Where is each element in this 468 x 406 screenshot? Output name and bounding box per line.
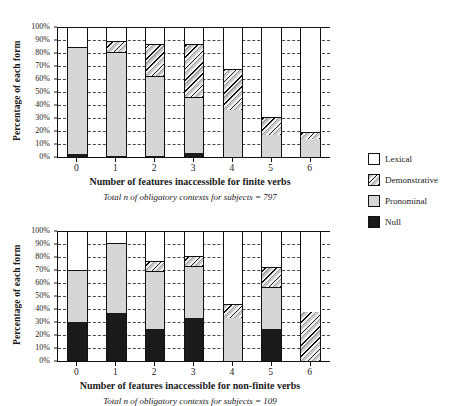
x-tick-mark	[193, 362, 194, 366]
bar-segment-pronominal	[68, 47, 87, 155]
y-tick-label: 100%	[31, 227, 50, 235]
bar-column	[67, 231, 88, 361]
bar-segment-pronominal	[224, 318, 243, 361]
legend-swatch-lexical-icon	[368, 153, 380, 165]
x-tick-label: 0	[74, 163, 79, 173]
bar-segment-lexical	[262, 231, 281, 267]
bar-segment-null	[185, 318, 204, 361]
bar-segment-demonstrative	[107, 41, 126, 51]
x-tick-label: 5	[268, 367, 273, 377]
bar-column	[145, 27, 166, 157]
bar-segment-lexical	[301, 231, 320, 312]
x-tick-label: 1	[113, 163, 118, 173]
bar-segment-null	[146, 329, 165, 362]
bar-column	[67, 27, 88, 157]
bar-segment-pronominal	[107, 243, 126, 313]
bar-segment-pronominal	[185, 97, 204, 153]
bar-segment-lexical	[107, 231, 126, 243]
y-axis-ticks-nonfinite: 0%10%20%30%40%50%60%70%80%90%100%	[22, 225, 54, 365]
x-tick-label: 6	[307, 367, 312, 377]
y-tick-label: 40%	[35, 101, 50, 109]
bar-column	[300, 231, 321, 361]
y-tick-label: 30%	[35, 318, 50, 326]
bar-segment-demonstrative	[146, 44, 165, 77]
bar-segment-lexical	[301, 27, 320, 132]
chart-legend: LexicalDemonstrativePronominalNull	[368, 148, 468, 232]
x-axis-ticks-finite: 0123456	[57, 158, 331, 174]
bar-segment-pronominal	[262, 135, 281, 157]
bar-column	[184, 231, 205, 361]
bar-segment-null	[68, 154, 87, 157]
caption-finite: Total n of obligatory contexts for subje…	[30, 192, 350, 202]
bar-segment-lexical	[68, 27, 87, 47]
bar-segment-null	[185, 153, 204, 157]
plot-area-nonfinite	[57, 231, 330, 362]
y-tick-label: 70%	[35, 266, 50, 274]
y-tick-label: 10%	[35, 140, 50, 148]
bar-segment-null	[262, 329, 281, 362]
x-tick-label: 2	[152, 163, 157, 173]
legend-item-demonstrative: Demonstrative	[368, 169, 468, 190]
y-tick-label: 90%	[35, 240, 50, 248]
y-tick-label: 20%	[35, 331, 50, 339]
bar-column	[261, 231, 282, 361]
y-tick-label: 60%	[35, 75, 50, 83]
y-axis-ticks-finite: 0%10%20%30%40%50%60%70%80%90%100%	[22, 21, 54, 161]
bar-segment-demonstrative	[224, 69, 243, 111]
legend-label: Pronominal	[385, 196, 427, 206]
legend-item-lexical: Lexical	[368, 148, 468, 169]
y-tick-label: 10%	[35, 344, 50, 352]
y-tick-label: 80%	[35, 253, 50, 261]
bar-segment-lexical	[146, 231, 165, 261]
bar-segment-demonstrative	[301, 312, 320, 361]
y-tick-label: 0%	[39, 357, 50, 365]
legend-item-pronominal: Pronominal	[368, 190, 468, 211]
x-tick-label: 6	[307, 163, 312, 173]
bar-segment-demonstrative	[224, 304, 243, 318]
x-tick-label: 5	[268, 163, 273, 173]
y-tick-label: 30%	[35, 114, 50, 122]
bar-segment-lexical	[107, 27, 126, 41]
bar-segment-demonstrative	[262, 117, 281, 135]
x-tick-mark	[310, 362, 311, 366]
y-tick-label: 100%	[31, 23, 50, 31]
x-axis-ticks-nonfinite: 0123456	[57, 362, 331, 378]
bar-segment-null	[68, 322, 87, 361]
x-tick-label: 2	[152, 367, 157, 377]
legend-label: Lexical	[385, 154, 412, 164]
x-tick-mark	[271, 158, 272, 162]
x-tick-label: 4	[229, 367, 234, 377]
x-tick-mark	[271, 362, 272, 366]
x-tick-mark	[154, 158, 155, 162]
x-tick-mark	[310, 158, 311, 162]
bar-segment-lexical	[224, 231, 243, 304]
x-axis-title-finite: Number of features inaccessible for fini…	[30, 176, 350, 187]
x-tick-label: 1	[113, 367, 118, 377]
bar-segment-demonstrative	[301, 132, 320, 139]
bar-column	[106, 27, 127, 157]
bar-segment-demonstrative	[185, 256, 204, 266]
legend-label: Demonstrative	[385, 175, 438, 185]
y-tick-label: 80%	[35, 49, 50, 57]
x-tick-label: 3	[191, 163, 196, 173]
bar-segment-pronominal	[146, 76, 165, 155]
bar-column	[106, 231, 127, 361]
x-tick-mark	[193, 158, 194, 162]
x-axis-title-nonfinite: Number of features inaccessible for non-…	[30, 380, 350, 391]
legend-label: Null	[385, 217, 401, 227]
bar-segment-demonstrative	[146, 261, 165, 271]
y-tick-label: 40%	[35, 305, 50, 313]
bar-segment-lexical	[146, 27, 165, 44]
y-tick-label: 70%	[35, 62, 50, 70]
x-tick-mark	[154, 362, 155, 366]
bar-segment-pronominal	[107, 52, 126, 156]
bar-segment-pronominal	[146, 271, 165, 328]
x-tick-mark	[76, 158, 77, 162]
legend-item-null: Null	[368, 211, 468, 232]
bar-segment-lexical	[262, 27, 281, 117]
y-tick-label: 20%	[35, 127, 50, 135]
bar-segment-lexical	[68, 231, 87, 270]
x-tick-mark	[232, 158, 233, 162]
bar-column	[300, 27, 321, 157]
bar-segment-pronominal	[185, 266, 204, 318]
